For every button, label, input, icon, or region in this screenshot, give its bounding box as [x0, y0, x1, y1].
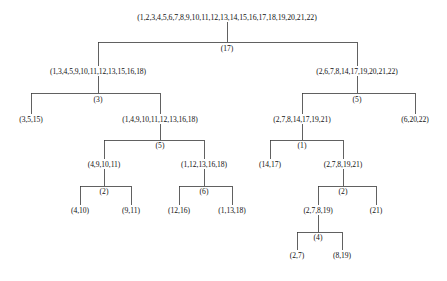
dendrogram-figure: (17)(3)(5)(5)(1)(2)(6)(2)(4)(1,2,3,4,5,6…	[0, 0, 447, 281]
cluster-label: (21)	[370, 206, 382, 215]
cluster-label: (2,7,8,19)	[303, 206, 332, 215]
cluster-label: (4,10)	[71, 206, 89, 215]
merge-label: (5)	[353, 95, 362, 104]
cluster-label: (2,7)	[290, 251, 304, 260]
cluster-label: (3,5,15)	[19, 115, 43, 124]
cluster-label: (2,7,8,14,17,19,21)	[273, 115, 330, 124]
merge-label: (1)	[298, 141, 307, 150]
cluster-label: (6,20,22)	[401, 115, 428, 124]
merge-label: (5)	[156, 141, 165, 150]
cluster-label: (8,19)	[333, 251, 351, 260]
cluster-label: (2,6,7,8,14,17,19,20,21,22)	[316, 67, 398, 76]
cluster-label: (1,13,18)	[218, 206, 245, 215]
merge-label: (2)	[100, 187, 109, 196]
merge-label: (4)	[314, 233, 323, 242]
cluster-label: (12,16)	[168, 206, 190, 215]
cluster-label: (1,4,9,10,11,12,13,16,18)	[122, 115, 198, 124]
root-cluster-label: (1,2,3,4,5,6,7,8,9,10,11,12,13,14,15,16,…	[137, 13, 316, 22]
cluster-label: (1,3,4,5,9,10,11,12,13,15,16,18)	[50, 67, 146, 76]
cluster-label: (9,11)	[122, 206, 140, 215]
cluster-label: (4,9,10,11)	[88, 160, 121, 169]
merge-label: (3)	[94, 95, 103, 104]
cluster-label: (2,7,8,19,21)	[324, 160, 363, 169]
dendrogram-link-layer	[0, 0, 447, 281]
merge-label: (17)	[221, 44, 234, 53]
cluster-label: (14,17)	[259, 160, 281, 169]
merge-label: (6)	[200, 187, 209, 196]
cluster-label: (1,12,13,16,18)	[181, 160, 227, 169]
merge-label: (2)	[339, 187, 348, 196]
dendrogram-links	[31, 22, 415, 250]
